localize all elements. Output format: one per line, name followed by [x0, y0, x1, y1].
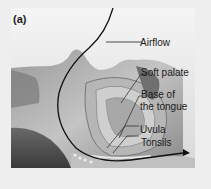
- label-airflow: Airflow: [140, 37, 170, 48]
- panel-label: (a): [13, 13, 26, 25]
- label-soft-palate: Soft palate: [141, 67, 189, 78]
- label-base-of-tongue-line1: Base of: [141, 89, 175, 100]
- label-base-of-tongue-line2: the tongue: [140, 101, 187, 112]
- label-tonsils: Tonsils: [141, 137, 172, 148]
- label-uvula: Uvula: [140, 124, 166, 135]
